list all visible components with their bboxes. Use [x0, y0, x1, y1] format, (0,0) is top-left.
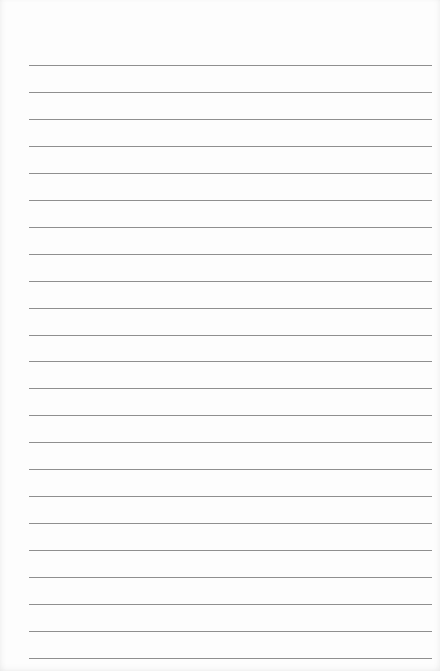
lined-paper-page	[0, 0, 440, 671]
ruled-line	[29, 281, 432, 282]
ruled-line	[29, 335, 432, 336]
ruled-line	[29, 469, 432, 470]
ruled-line	[29, 92, 432, 93]
ruled-line	[29, 65, 432, 66]
ruled-line	[29, 442, 432, 443]
ruled-line	[29, 658, 432, 659]
ruled-line	[29, 496, 432, 497]
ruled-line	[29, 361, 432, 362]
ruled-line	[29, 631, 432, 632]
ruled-line	[29, 173, 432, 174]
ruled-line	[29, 254, 432, 255]
ruled-line	[29, 308, 432, 309]
ruled-line	[29, 415, 432, 416]
ruled-line	[29, 200, 432, 201]
ruled-line	[29, 388, 432, 389]
ruled-line	[29, 119, 432, 120]
ruled-line	[29, 604, 432, 605]
ruled-line	[29, 227, 432, 228]
ruled-line	[29, 523, 432, 524]
ruled-line	[29, 146, 432, 147]
ruled-line	[29, 577, 432, 578]
ruled-line	[29, 550, 432, 551]
